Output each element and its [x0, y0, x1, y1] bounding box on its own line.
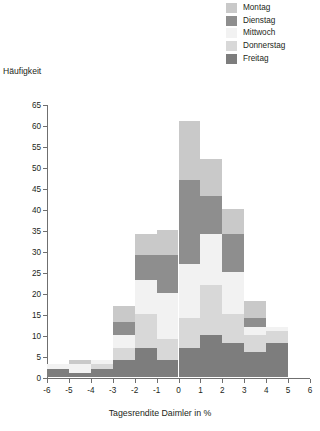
y-tick-mark	[43, 357, 47, 358]
legend-swatch-icon	[226, 54, 237, 64]
x-tick-label: 0	[176, 386, 181, 395]
bar-stack	[69, 360, 91, 377]
legend-swatch-icon	[226, 16, 237, 26]
x-tick-mark	[179, 379, 180, 383]
x-tick-mark	[222, 379, 223, 383]
x-tick-label: 1	[198, 386, 203, 395]
y-tick-mark	[43, 294, 47, 295]
y-tick-mark	[43, 315, 47, 316]
x-tick-mark	[200, 379, 201, 383]
legend-item-label: Donnerstag	[243, 41, 285, 51]
x-tick-mark	[135, 379, 136, 383]
legend-swatch-icon	[226, 28, 237, 38]
bar-segment-montag	[244, 301, 266, 318]
bar-stack	[222, 209, 244, 377]
x-tick-label: 3	[242, 386, 247, 395]
x-tick-mark	[113, 379, 114, 383]
bar-segment-mittwoch	[179, 264, 201, 319]
bar-segment-freitag	[222, 343, 244, 377]
y-tick-label: 60	[32, 122, 41, 131]
bar-stack	[91, 360, 113, 377]
legend-swatch-icon	[226, 41, 237, 51]
y-tick-mark	[43, 252, 47, 253]
bar-segment-freitag	[179, 348, 201, 377]
y-tick-mark	[43, 273, 47, 274]
bar-segment-dienstag	[113, 322, 135, 335]
plot-area: 05101520253035404550556065 -6-5-4-3-2-10…	[47, 105, 310, 378]
x-tick-mark	[69, 379, 70, 383]
bar-segment-donnerstag	[244, 335, 266, 352]
bar-segment-mittwoch	[244, 327, 266, 335]
bar-segment-dienstag	[244, 318, 266, 326]
y-tick-label: 30	[32, 248, 41, 257]
bar-segment-dienstag	[222, 234, 244, 272]
y-tick-mark	[43, 147, 47, 148]
bar-segment-mittwoch	[200, 234, 222, 284]
bar-segment-mittwoch	[135, 280, 157, 314]
x-tick-label: -3	[109, 386, 116, 395]
legend-item-label: Freitag	[243, 54, 268, 64]
bar-segment-donnerstag	[179, 318, 201, 347]
x-tick-label: -2	[131, 386, 138, 395]
x-axis-title: Tagesrendite Daimler in %	[0, 408, 320, 418]
bar-stack	[244, 301, 266, 377]
x-tick-mark	[244, 379, 245, 383]
x-tick-label: 2	[220, 386, 225, 395]
bar-stack	[47, 364, 69, 377]
y-tick-mark	[43, 105, 47, 106]
legend-item-donnerstag: Donnerstag	[226, 40, 318, 53]
y-tick-label: 55	[32, 143, 41, 152]
legend-swatch-icon	[226, 3, 237, 13]
x-tick-label: -6	[43, 386, 50, 395]
bar-segment-freitag	[244, 352, 266, 377]
legend-item-dienstag: Dienstag	[226, 15, 318, 28]
bar-segment-freitag	[266, 343, 288, 377]
bar-segment-freitag	[200, 335, 222, 377]
x-tick-label: -5	[65, 386, 72, 395]
x-tick-label: 4	[264, 386, 269, 395]
bar-segment-donnerstag	[200, 285, 222, 335]
x-tick-mark	[157, 379, 158, 383]
legend-item-label: Dienstag	[243, 16, 275, 26]
bar-segment-dienstag	[135, 255, 157, 280]
y-tick-label: 35	[32, 227, 41, 236]
bar-segment-mittwoch	[69, 364, 91, 372]
y-tick-label: 5	[36, 353, 41, 362]
bar-segment-donnerstag	[157, 339, 179, 360]
y-tick-label: 50	[32, 164, 41, 173]
bar-stack	[200, 159, 222, 377]
bar-stack	[179, 121, 201, 377]
legend-item-montag: Montag	[226, 2, 318, 15]
y-axis-title: Häufigkeit	[3, 66, 41, 76]
bar-stack	[266, 327, 288, 377]
legend-item-freitag: Freitag	[226, 52, 318, 65]
x-tick-mark	[91, 379, 92, 383]
y-tick-mark	[43, 210, 47, 211]
bar-segment-dienstag	[200, 196, 222, 234]
x-tick-mark	[47, 379, 48, 383]
bar-segment-donnerstag	[266, 331, 288, 344]
bar-segment-dienstag	[157, 255, 179, 293]
x-tick-label: -4	[87, 386, 94, 395]
y-tick-mark	[43, 231, 47, 232]
bar-segment-montag	[157, 230, 179, 255]
bar-segment-freitag	[157, 360, 179, 377]
bar-segment-donnerstag	[222, 314, 244, 343]
y-tick-label: 20	[32, 290, 41, 299]
x-tick-mark	[288, 379, 289, 383]
bar-segment-montag	[113, 306, 135, 323]
legend-item-label: Montag	[243, 3, 270, 13]
bar-segment-donnerstag	[135, 314, 157, 348]
chart-legend: MontagDienstagMittwochDonnerstagFreitag	[226, 2, 318, 65]
y-tick-mark	[43, 126, 47, 127]
y-tick-label: 0	[36, 374, 41, 383]
y-tick-label: 15	[32, 311, 41, 320]
bar-segment-mittwoch	[222, 272, 244, 314]
legend-item-label: Mittwoch	[243, 28, 275, 38]
bar-segment-freitag	[91, 369, 113, 377]
bar-segment-dienstag	[179, 180, 201, 264]
y-tick-mark	[43, 336, 47, 337]
bar-segment-freitag	[113, 360, 135, 377]
y-tick-label: 45	[32, 185, 41, 194]
x-tick-mark	[266, 379, 267, 383]
